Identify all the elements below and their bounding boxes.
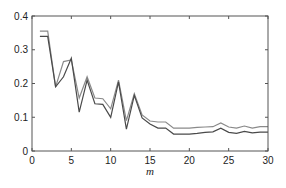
- x-axis-label: m: [146, 165, 154, 177]
- axes-frame: [32, 16, 268, 151]
- y-tick-label: 0: [22, 146, 28, 157]
- y-tick-labels: 00.10.20.30.4: [14, 11, 28, 157]
- data-series: [40, 31, 268, 134]
- y-tick-label: 0.4: [14, 11, 28, 22]
- x-tick-label: 5: [69, 155, 75, 166]
- line-chart: 051015202530 00.10.20.30.4 m: [0, 0, 286, 188]
- x-tick-label: 20: [184, 155, 196, 166]
- x-tick-label: 25: [223, 155, 235, 166]
- x-tick-label: 30: [262, 155, 274, 166]
- x-tick-label: 0: [29, 155, 35, 166]
- y-tick-label: 0.2: [14, 78, 28, 89]
- x-tick-label: 10: [105, 155, 117, 166]
- y-tick-label: 0.3: [14, 44, 28, 55]
- series-lower-line: [40, 36, 268, 134]
- axis-ticks: [32, 16, 268, 151]
- y-tick-label: 0.1: [14, 112, 28, 123]
